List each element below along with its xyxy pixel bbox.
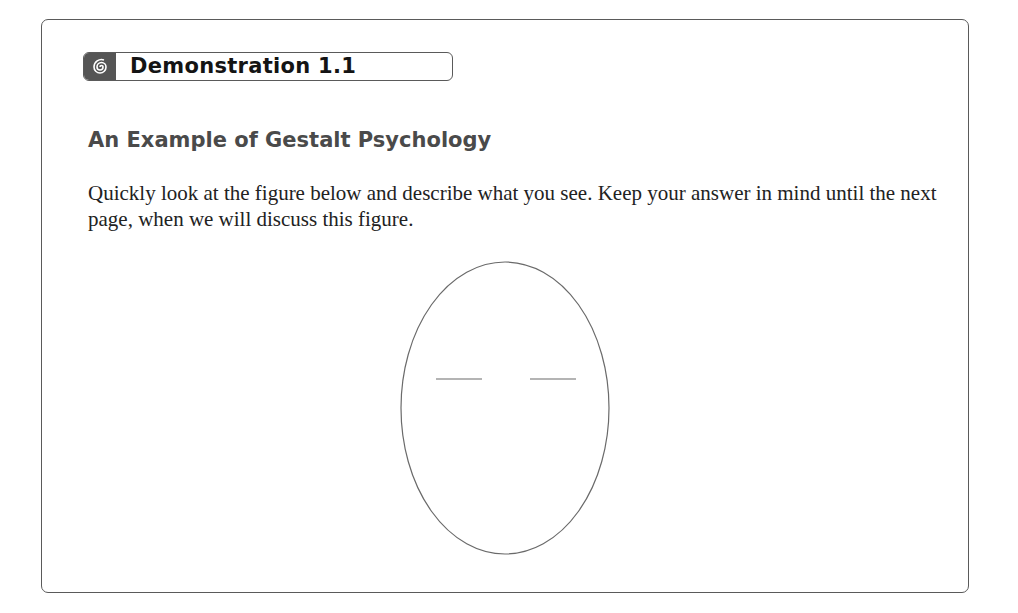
demonstration-title: An Example of Gestalt Psychology: [88, 128, 491, 152]
demonstration-label: Demonstration 1.1: [83, 52, 453, 81]
demonstration-label-text: Demonstration 1.1: [116, 53, 356, 80]
spiral-icon: [84, 53, 116, 80]
face-oval: [401, 262, 609, 554]
demonstration-instructions: Quickly look at the figure below and des…: [88, 180, 948, 232]
gestalt-face-figure: [400, 260, 615, 560]
